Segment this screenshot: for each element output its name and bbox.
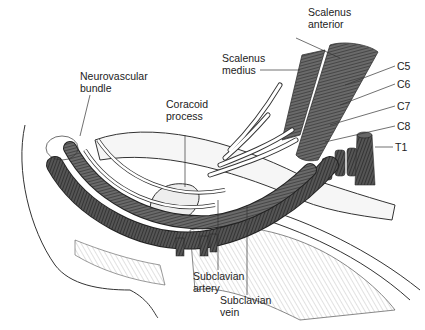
label-c6: C6 (397, 78, 410, 90)
label-neurovascular-bundle: Neurovascular bundle (80, 70, 148, 94)
label-scalenus-anterior: Scalenus anterior (308, 6, 351, 30)
label-c5: C5 (397, 60, 410, 72)
label-t1: T1 (395, 141, 407, 153)
label-coracoid-process: Coracoid process (166, 98, 208, 122)
anatomy-figure: Scalenus anterior Scalenus medius C5 C6 … (0, 0, 425, 330)
label-c7: C7 (397, 100, 410, 112)
label-subclavian-artery: Subclavian artery (193, 270, 244, 294)
label-subclavian-vein: Subclavian vein (220, 294, 271, 318)
label-scalenus-medius: Scalenus medius (222, 52, 265, 76)
label-c8: C8 (397, 120, 410, 132)
